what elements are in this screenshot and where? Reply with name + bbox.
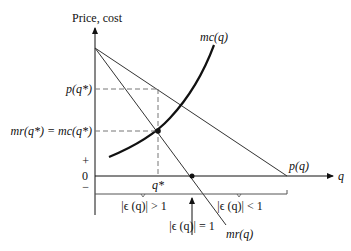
mc-curve-label: mc(q) (200, 30, 228, 44)
demand-curve (95, 48, 287, 176)
optimum-quantity-label: q* (152, 178, 164, 192)
unit-elastic-point (190, 174, 195, 179)
monopoly-diagram: Price, cost q mc(q) p(q) mr(q) p(q*) mr(… (0, 0, 351, 251)
marginal-cost-curve (109, 45, 214, 157)
optimum-point (155, 128, 161, 134)
price-at-optimum-label: p(q*) (65, 82, 92, 96)
inelastic-region-label: |ϵ (q)| < 1 (217, 199, 262, 213)
unit-elastic-label: |ϵ (q)| = 1 (169, 219, 214, 233)
y-axis-label: Price, cost (72, 11, 123, 25)
mr-equals-mc-label: mr(q*) = mc(q*) (11, 124, 92, 138)
plus-sign-label: + (82, 154, 89, 168)
mr-curve-label: mr(q) (226, 227, 253, 241)
minus-sign-label: − (82, 180, 89, 194)
x-axis-label: q (338, 169, 344, 183)
demand-curve-label: p(q) (288, 159, 309, 173)
elastic-region-label: |ϵ (q)| > 1 (121, 199, 166, 213)
